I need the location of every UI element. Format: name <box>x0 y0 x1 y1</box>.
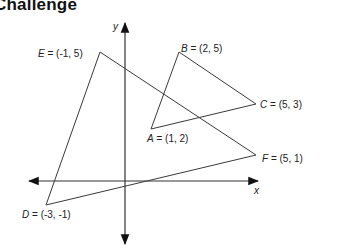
point-label-c: C = (5, 3) <box>260 99 302 110</box>
triangle-abc <box>151 52 256 129</box>
point-label-f: F = (5, 1) <box>262 153 303 164</box>
point-label-a: A = (1, 2) <box>146 133 188 144</box>
coordinate-diagram: y x E = (-1, 5) B = (2, 5) C = (5, 3) A … <box>0 0 343 251</box>
x-axis-label: x <box>253 185 260 196</box>
point-label-b: B = (2, 5) <box>181 43 222 54</box>
point-label-d: D = (-3, -1) <box>22 209 71 220</box>
point-label-e: E = (-1, 5) <box>38 48 83 59</box>
y-axis-label: y <box>112 21 119 32</box>
